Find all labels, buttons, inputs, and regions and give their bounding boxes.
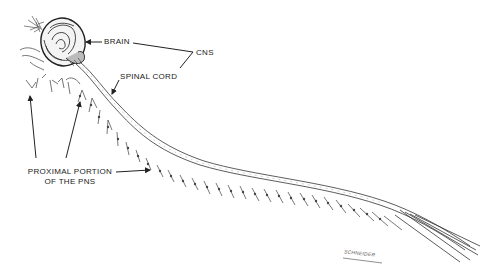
cns-label: CNS (196, 48, 214, 58)
spinal-cord-arrow (112, 80, 119, 94)
pns-label-line1: PROXIMAL PORTION (20, 167, 120, 177)
pns-label-line2: OF THE PNS (20, 177, 120, 187)
dorsal-root-ganglia (79, 95, 381, 220)
spinal-cord-label: SPINAL CORD (120, 72, 177, 82)
brain-label: BRAIN (104, 37, 130, 47)
pns-arrow-left (30, 96, 36, 158)
pns-arrow-right (116, 170, 150, 172)
spinal-cord-drawing (76, 62, 480, 262)
nervous-system-illustration (0, 0, 483, 272)
pns-arrow-mid (66, 102, 80, 158)
signature-underline (343, 258, 382, 263)
cranial-nerve-sketch (24, 16, 44, 32)
cns-bracket (133, 43, 193, 68)
pns-label: PROXIMAL PORTION OF THE PNS (20, 167, 120, 187)
